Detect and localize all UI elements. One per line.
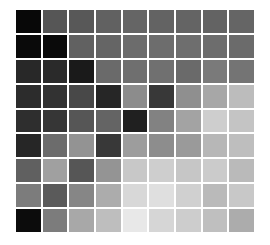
heatmap-cell (69, 134, 94, 157)
heatmap-cell (149, 110, 174, 133)
heatmap-cell (43, 10, 68, 33)
heatmap-cell (96, 10, 121, 33)
heatmap-cell (203, 35, 228, 58)
heatmap-cell (43, 110, 68, 133)
heatmap-cell (43, 159, 68, 182)
heatmap-cell (149, 159, 174, 182)
heatmap-cell (123, 60, 148, 83)
heatmap-cell (16, 184, 41, 207)
heatmap-cell (16, 159, 41, 182)
heatmap-cell (123, 159, 148, 182)
heatmap-cell (16, 10, 41, 33)
heatmap-cell (203, 10, 228, 33)
heatmap-cell (69, 10, 94, 33)
heatmap-cell (149, 10, 174, 33)
heatmap-figure (0, 0, 270, 245)
heatmap-cell (16, 85, 41, 108)
heatmap-cell (203, 209, 228, 232)
heatmap-cell (229, 110, 254, 133)
heatmap-cell (43, 184, 68, 207)
heatmap-cell (69, 85, 94, 108)
heatmap-cell (69, 60, 94, 83)
heatmap-cell (149, 134, 174, 157)
heatmap-cell (96, 184, 121, 207)
heatmap-cell (229, 85, 254, 108)
heatmap-cell (176, 184, 201, 207)
heatmap-cell (176, 60, 201, 83)
heatmap-cell (203, 184, 228, 207)
heatmap-cell (176, 134, 201, 157)
heatmap-cell (176, 110, 201, 133)
heatmap-cell (229, 35, 254, 58)
heatmap-cell (229, 209, 254, 232)
heatmap-cell (96, 159, 121, 182)
heatmap-cell (123, 10, 148, 33)
heatmap-cell (229, 184, 254, 207)
heatmap-cell (123, 209, 148, 232)
heatmap-cell (229, 134, 254, 157)
heatmap-cell (229, 60, 254, 83)
heatmap-cell (16, 134, 41, 157)
heatmap-cell (203, 60, 228, 83)
heatmap-cell (123, 184, 148, 207)
heatmap-cell (16, 209, 41, 232)
heatmap-cell (43, 85, 68, 108)
heatmap-cell (69, 184, 94, 207)
heatmap-cell (43, 209, 68, 232)
heatmap-cell (123, 85, 148, 108)
heatmap-cell (43, 35, 68, 58)
heatmap-cell (149, 85, 174, 108)
heatmap-cell (96, 60, 121, 83)
heatmap-cell (229, 10, 254, 33)
heatmap-cell (69, 159, 94, 182)
heatmap-cell (96, 110, 121, 133)
heatmap-cell (96, 35, 121, 58)
heatmap-cell (69, 209, 94, 232)
heatmap-cell (176, 10, 201, 33)
heatmap-cell (16, 35, 41, 58)
heatmap-cell (149, 209, 174, 232)
heatmap-cell (123, 134, 148, 157)
heatmap-cell (69, 110, 94, 133)
heatmap-cell (96, 209, 121, 232)
heatmap-cell (203, 159, 228, 182)
heatmap-cell (149, 60, 174, 83)
heatmap-cell (16, 60, 41, 83)
heatmap-cell (16, 110, 41, 133)
heatmap-cell (96, 134, 121, 157)
heatmap-cell (69, 35, 94, 58)
heatmap-cell (229, 159, 254, 182)
heatmap-cell (43, 134, 68, 157)
heatmap-cell (123, 35, 148, 58)
heatmap-cell (96, 85, 121, 108)
heatmap-cell (149, 184, 174, 207)
heatmap-cell (123, 110, 148, 133)
heatmap-grid (16, 10, 254, 232)
heatmap-cell (203, 110, 228, 133)
heatmap-cell (43, 60, 68, 83)
heatmap-cell (203, 134, 228, 157)
heatmap-cell (176, 35, 201, 58)
heatmap-cell (176, 159, 201, 182)
heatmap-cell (176, 209, 201, 232)
heatmap-cell (149, 35, 174, 58)
heatmap-cell (203, 85, 228, 108)
heatmap-cell (176, 85, 201, 108)
